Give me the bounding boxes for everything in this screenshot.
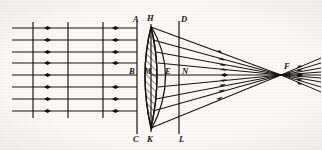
incoming-ray-arrowheads (44, 26, 119, 113)
label-K: K (146, 134, 154, 144)
incoming-parallel-rays (12, 28, 137, 111)
label-A: A (132, 14, 139, 24)
label-C: C (133, 134, 139, 144)
label-E: E (164, 66, 171, 76)
ray-diagram-svg: A H D B M E N C K L F (0, 0, 322, 150)
converging-ray (151, 75, 281, 128)
label-F: F (283, 61, 290, 71)
converging-rays (151, 27, 281, 128)
label-B: B (128, 66, 135, 76)
converging-ray (153, 75, 281, 111)
converging-ray (153, 40, 281, 75)
converging-ray (156, 52, 281, 75)
label-D: D (180, 14, 187, 24)
label-N: N (181, 66, 189, 76)
label-M: M (143, 66, 152, 76)
converging-ray (156, 75, 281, 99)
plane-wavefronts (33, 22, 103, 118)
optics-figure: A H D B M E N C K L F (0, 0, 322, 150)
label-L: L (178, 134, 184, 144)
label-H: H (146, 13, 154, 23)
